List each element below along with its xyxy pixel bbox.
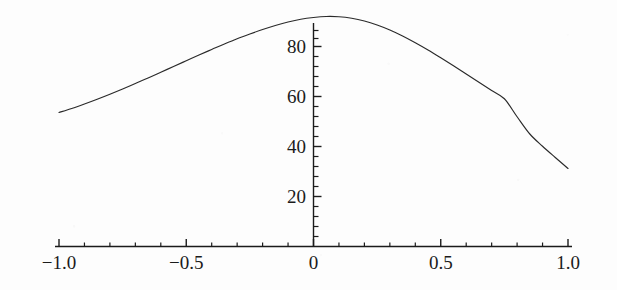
x-tick-label: 0.5	[429, 252, 453, 274]
y-tick-label: 40	[278, 136, 306, 158]
plot-canvas	[0, 0, 617, 290]
x-tick-label: 1.0	[556, 252, 580, 274]
chart-figure: −1.0−0.500.51.0 20406080	[0, 0, 617, 290]
x-tick-label: −0.5	[169, 252, 203, 274]
axes-group	[55, 23, 572, 247]
y-tick-label: 20	[278, 186, 306, 208]
y-tick-label: 60	[278, 86, 306, 108]
x-axis-ticks	[59, 239, 568, 247]
x-tick-label: −1.0	[42, 252, 76, 274]
x-tick-label: 0	[309, 252, 319, 274]
y-axis-ticks	[314, 31, 322, 237]
y-tick-label: 80	[278, 36, 306, 58]
